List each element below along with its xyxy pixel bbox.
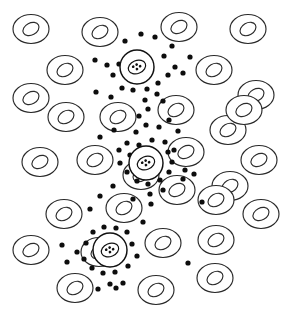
red-blood-cell (13, 15, 49, 44)
blood-smear-figure (0, 0, 286, 315)
platelet-dot (160, 98, 165, 103)
platelet-dot (144, 86, 149, 91)
platelet-dot (89, 265, 94, 270)
platelet-dot (191, 171, 196, 176)
platelet-dot (97, 193, 102, 198)
platelet-dot (138, 31, 143, 36)
platelet-dot (149, 137, 154, 142)
red-blood-cell (22, 148, 58, 177)
platelet-dot (112, 269, 117, 274)
platelet-dot (140, 219, 145, 224)
platelet-dot (134, 253, 139, 258)
red-blood-cell (138, 276, 174, 305)
red-blood-cell (100, 103, 136, 132)
special-cell (93, 233, 127, 267)
platelet-dot (187, 54, 192, 59)
platelet-dot (95, 286, 100, 291)
platelet-dot (90, 229, 95, 234)
platelet-dot (59, 242, 64, 247)
platelet-dot (169, 43, 174, 48)
platelet-dot (161, 53, 166, 58)
platelet-dot (185, 260, 190, 265)
platelet-dot (171, 147, 176, 152)
platelet-dot (157, 177, 162, 182)
platelet-dot (108, 94, 113, 99)
red-blood-cell (82, 18, 118, 47)
platelet-dot (182, 167, 187, 172)
red-blood-cell (106, 194, 142, 223)
platelet-dot (172, 64, 177, 69)
platelet-dot (145, 181, 150, 186)
platelet-dot (111, 127, 116, 132)
red-blood-cell (198, 226, 234, 255)
platelet-dot (180, 176, 185, 181)
platelet-dot (180, 70, 185, 75)
platelet-dot (101, 224, 106, 229)
platelet-dot (122, 38, 127, 43)
platelet-dot (107, 281, 112, 286)
red-blood-cell (161, 13, 197, 42)
platelet-dot (64, 259, 69, 264)
platelet-dot (110, 183, 115, 188)
platelet-dot (175, 128, 180, 133)
platelet-dot (87, 206, 92, 211)
special-cell (120, 50, 154, 84)
red-blood-cell (46, 200, 82, 229)
platelet-dot (129, 241, 134, 246)
red-blood-cell (230, 15, 266, 44)
platelet-dot (117, 160, 122, 165)
red-blood-cell (47, 56, 83, 85)
special-cell (129, 146, 163, 180)
platelet-dot (156, 124, 161, 129)
red-blood-cell (77, 146, 113, 175)
platelet-dot (104, 62, 109, 67)
platelet-dot (145, 106, 150, 111)
red-blood-cell (57, 274, 93, 303)
cell-diagram-canvas (0, 0, 286, 315)
platelet-dot (124, 169, 129, 174)
platelet-dot (125, 263, 130, 268)
platelet-dot (154, 91, 159, 96)
platelet-dot (148, 201, 153, 206)
platelet-dot (160, 187, 165, 192)
red-blood-cell (241, 146, 277, 175)
platelet-dot (199, 199, 204, 204)
platelet-dot (130, 87, 135, 92)
red-blood-cell (226, 96, 262, 125)
platelet-dot (74, 249, 79, 254)
platelet-dot (155, 80, 160, 85)
platelet-dot (165, 72, 170, 77)
red-blood-cell (196, 56, 232, 85)
platelet-dot (143, 122, 148, 127)
platelet-dot (130, 196, 135, 201)
platelet-dot (147, 191, 152, 196)
platelet-dot (93, 89, 98, 94)
platelet-dot (100, 270, 105, 275)
red-blood-cell (48, 103, 84, 132)
platelet-dot (162, 139, 167, 144)
platelet-dot (119, 85, 124, 90)
platelet-dot (166, 117, 171, 122)
platelet-dot (113, 225, 118, 230)
platelet-dot (110, 72, 115, 77)
red-blood-cell (243, 200, 279, 229)
platelet-dot (152, 34, 157, 39)
platelet-dot (81, 256, 86, 261)
red-blood-cell (145, 229, 181, 258)
red-blood-cell (13, 236, 49, 265)
platelet-dot (120, 280, 125, 285)
platelet-dot (165, 149, 170, 154)
platelet-dot (113, 285, 118, 290)
red-blood-cell (13, 84, 49, 113)
platelet-dot (116, 147, 121, 152)
platelet-dot (142, 97, 147, 102)
platelet-dot (136, 113, 141, 118)
platelet-dot (83, 240, 88, 245)
platelet-dot (124, 229, 129, 234)
platelet-dot (92, 57, 97, 62)
platelet-dot (97, 134, 102, 139)
platelet-dot (124, 140, 129, 145)
platelet-dot (166, 169, 171, 174)
platelet-dot (133, 129, 138, 134)
platelet-dot (169, 159, 174, 164)
